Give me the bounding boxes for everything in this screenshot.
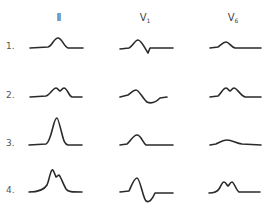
p-wave-row4-lead-v1 <box>120 178 173 202</box>
p-wave-row2-lead-v6 <box>210 88 261 97</box>
p-wave-row4-lead-ii <box>29 170 82 192</box>
p-wave-row3-lead-v6 <box>210 140 261 145</box>
p-wave-row1-lead-v1 <box>120 40 173 53</box>
p-wave-row1-lead-v6 <box>210 42 261 48</box>
p-wave-row2-lead-ii <box>30 88 82 97</box>
waveform-canvas <box>0 0 271 207</box>
p-wave-row1-lead-ii <box>30 38 83 48</box>
p-wave-row3-lead-ii <box>29 118 82 145</box>
p-wave-row4-lead-v6 <box>209 182 260 193</box>
p-wave-row3-lead-v1 <box>120 135 173 145</box>
ecg-comparison-diagram: Ⅱ V1 V6 1. 2. 3. 4. <box>0 0 271 207</box>
p-wave-row2-lead-v1 <box>120 90 167 103</box>
